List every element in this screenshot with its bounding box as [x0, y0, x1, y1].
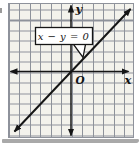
equation-callout: x − y = 0: [36, 28, 93, 58]
x-axis-label: x: [124, 73, 132, 87]
page-edge-shadow: [2, 139, 139, 143]
y-axis-label: y: [75, 2, 84, 16]
callout-tail: [74, 44, 86, 57]
equation-label: x − y = 0: [38, 31, 90, 42]
scan-artifact-mark: [0, 8, 2, 13]
graph-overlay: y x O x − y = 0: [0, 0, 139, 144]
textbook-graph-figure: y x O x − y = 0: [0, 0, 139, 144]
origin-label: O: [76, 74, 86, 86]
